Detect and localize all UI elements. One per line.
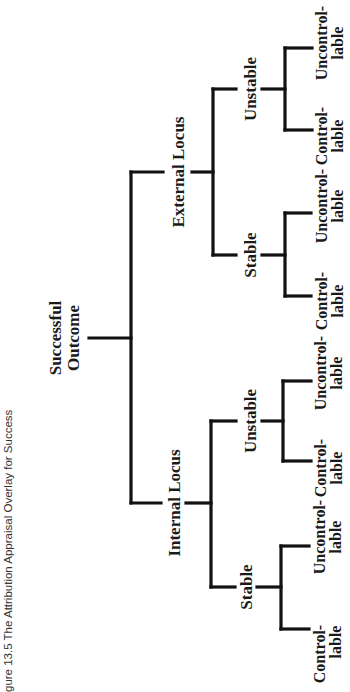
leaf-line2: lable	[328, 452, 345, 485]
leaf-line2: lable	[327, 521, 344, 554]
attribution-tree-diagram: gure 13.5 The Attribution Appraisal Over…	[0, 0, 350, 692]
root-node: Successful Outcome	[46, 300, 83, 375]
internal-locus-label: Internal Locus	[165, 449, 184, 557]
leaf-line2: lable	[328, 357, 345, 390]
external-stable-node: Stable Uncontrol- lable Control- lable	[213, 169, 346, 330]
leaf-internal-unstable-uncontrollable: Uncontrol- lable	[312, 336, 345, 410]
leaf-external-unstable-controllable: Control- lable	[313, 107, 346, 165]
leaf-external-unstable-uncontrollable: Uncontrol- lable	[313, 6, 346, 80]
leaf-external-stable-uncontrollable: Uncontrol- lable	[313, 169, 346, 243]
leaf-internal-stable-controllable: Control- lable	[311, 625, 344, 683]
internal-unstable-node: Unstable Uncontrol- lable Control- lable	[211, 336, 345, 497]
root-edges	[89, 172, 131, 503]
external-unstable-label: Unstable	[241, 56, 260, 121]
external-locus-label: External Locus	[169, 116, 188, 227]
leaf-external-stable-controllable: Control- lable	[313, 272, 346, 330]
branch-internal-locus: Internal Locus Unstable Uncontrol- lable…	[131, 336, 345, 683]
leaf-line2: lable	[329, 285, 346, 318]
leaf-line1: Uncontrol-	[313, 6, 330, 80]
internal-stable-label: Stable	[237, 564, 256, 610]
leaf-line1: Control-	[313, 272, 330, 330]
internal-unstable-label: Unstable	[241, 388, 260, 453]
leaf-line2: lable	[329, 190, 346, 223]
branch-external-locus: External Locus Unstable Uncontrol- lable…	[131, 6, 346, 330]
leaf-line1: Uncontrol-	[311, 500, 328, 574]
leaf-line1: Uncontrol-	[313, 169, 330, 243]
leaf-line1: Control-	[311, 625, 328, 683]
internal-stable-node: Stable Uncontrol- lable Control- lable	[211, 500, 344, 683]
leaf-internal-unstable-controllable: Control- lable	[312, 439, 345, 497]
figure-caption: gure 13.5 The Attribution Appraisal Over…	[2, 409, 14, 692]
root-label-line2: Outcome	[64, 305, 83, 372]
external-unstable-node: Unstable Uncontrol- lable Control- lable	[213, 6, 346, 165]
leaf-line1: Control-	[313, 107, 330, 165]
leaf-line2: lable	[329, 120, 346, 153]
root-label-line1: Successful	[46, 300, 65, 375]
leaf-internal-stable-uncontrollable: Uncontrol- lable	[311, 500, 344, 574]
external-stable-label: Stable	[241, 232, 260, 278]
leaf-line1: Uncontrol-	[312, 336, 329, 410]
leaf-line1: Control-	[312, 439, 329, 497]
leaf-line2: lable	[327, 626, 344, 659]
leaf-line2: lable	[329, 27, 346, 60]
